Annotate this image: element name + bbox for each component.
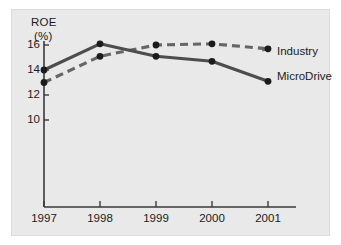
x-axis-ticks (44, 201, 268, 207)
y-tick-label-16: 16 (20, 38, 40, 50)
x-tick-label-1999: 1999 (136, 212, 176, 224)
y-tick-label-12: 12 (20, 88, 40, 100)
series-line-microdrive (44, 44, 268, 82)
x-tick-label-2000: 2000 (192, 212, 232, 224)
series-label-industry: Industry (277, 45, 318, 57)
x-tick-label-1997: 1997 (24, 212, 64, 224)
y-tick-label-14: 14 (20, 63, 40, 75)
x-tick-label-2001: 2001 (248, 212, 288, 224)
y-axis-title: ROE (31, 16, 57, 28)
chart-figure: ROE (%) 16 14 12 10 1997 1998 1999 2000 … (0, 0, 341, 245)
series-line-industry (44, 44, 268, 83)
y-tick-label-10: 10 (20, 113, 40, 125)
series-label-microdrive: MicroDrive (277, 70, 332, 82)
x-tick-label-1998: 1998 (80, 212, 120, 224)
